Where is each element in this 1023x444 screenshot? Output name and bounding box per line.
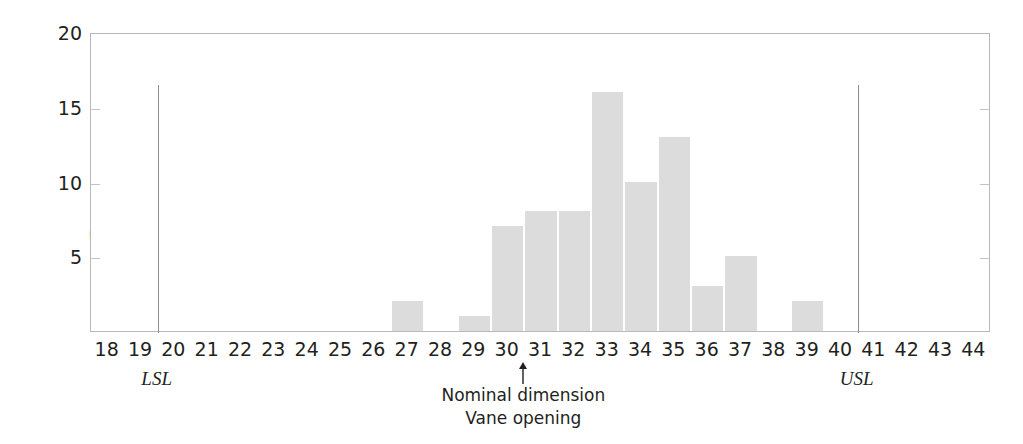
histogram-bar [591,92,624,331]
histogram-bar [558,211,591,331]
usl-label: USL [840,368,874,390]
x-axis-tick-label: 35 [661,338,685,360]
histogram-bar [391,301,424,331]
x-axis-tick-label: 40 [828,338,852,360]
x-axis-tick-label: 28 [428,338,452,360]
x-axis-tick-label: 30 [495,338,519,360]
x-axis-tick-label: 22 [228,338,252,360]
x-axis-tick-label: 20 [161,338,185,360]
x-axis-tick-label: 33 [595,338,619,360]
histogram-figure: Frequency 5101520 1819202122232425262728… [0,0,1023,444]
x-axis-tick-label: 19 [128,338,152,360]
histogram-bar [724,256,757,331]
x-axis-tick-label: 44 [961,338,985,360]
nominal-dimension-arrow-icon [516,362,530,384]
histogram-bar [658,137,691,331]
x-axis-tick-label: 25 [328,338,352,360]
x-axis-tick-label: 41 [861,338,885,360]
x-axis-tick-label: 23 [261,338,285,360]
x-axis-tick-label: 29 [461,338,485,360]
x-axis-tick-label: 43 [928,338,952,360]
x-axis-tick-label: 42 [895,338,919,360]
histogram-bar [458,316,491,331]
x-axis-tick-label: 27 [395,338,419,360]
upper-spec-limit-line [858,85,859,333]
x-axis-tick-label: 34 [628,338,652,360]
x-axis-tick-label: 24 [295,338,319,360]
y-axis-tick-label: 15 [58,97,82,119]
x-axis-tick-label: 21 [195,338,219,360]
vane-opening-label: Vane opening [465,408,581,428]
y-axis-tick-label: 5 [70,246,82,268]
histogram-bar [491,226,524,331]
x-axis-tick-label: 39 [795,338,819,360]
y-axis-tick-labels: 5101520 [32,0,82,444]
histogram-bar [691,286,724,331]
histogram-bar [524,211,557,331]
nominal-dimension-label: Nominal dimension [441,385,605,405]
y-axis-tick-label: 10 [58,172,82,194]
histogram-bar [791,301,824,331]
x-axis-tick-label: 32 [561,338,585,360]
lsl-label: LSL [141,368,172,390]
x-axis-tick-label: 26 [361,338,385,360]
histogram-bar [624,182,657,332]
x-axis-tick-label: 18 [95,338,119,360]
lower-spec-limit-line [158,85,159,333]
y-axis-tick-label: 20 [58,22,82,44]
histogram-bars [91,34,989,331]
x-axis-tick-label: 38 [761,338,785,360]
x-axis-tick-label: 37 [728,338,752,360]
x-axis-tick-label: 31 [528,338,552,360]
x-axis-tick-label: 36 [695,338,719,360]
plot-area [90,33,990,332]
